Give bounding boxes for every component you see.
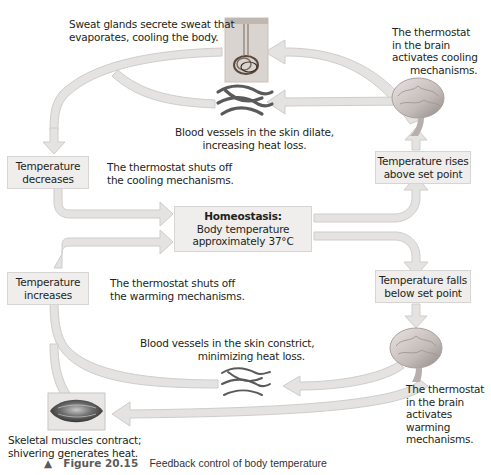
- thermostat-warming-label: The thermostat in the brain activates wa…: [406, 383, 484, 446]
- muscles-label: Skeletal muscles contract; shivering gen…: [8, 434, 141, 459]
- figure-caption: ▲ Figure 20.15 Feedback control of body …: [44, 457, 327, 469]
- blood-vessels-dilated-icon: [218, 86, 272, 114]
- thermostat-cooling-line: mechanisms.: [392, 64, 478, 77]
- shuts-off-warming-label: The thermostat shuts off the warming mec…: [110, 277, 245, 302]
- figure-description: Feedback control of body temperature: [149, 457, 326, 469]
- thermostat-cooling-line: activates cooling: [392, 51, 478, 64]
- constrict-label: Blood vessels in the skin constrict, min…: [140, 337, 305, 362]
- muscles-label-line: Skeletal muscles contract;: [8, 434, 141, 447]
- temp-decreases-line: decreases: [8, 173, 88, 186]
- temp-falls-box: Temperature falls below set point: [375, 270, 471, 303]
- shuts-off-cooling-line: the cooling mechanisms.: [107, 174, 234, 187]
- dilate-label-line: Blood vessels in the skin dilate,: [172, 126, 337, 139]
- temp-decreases-box: Temperature decreases: [7, 156, 89, 189]
- arrow-brain-to-muscle: [112, 380, 428, 426]
- shuts-off-warming-line: the warming mechanisms.: [110, 290, 245, 303]
- arrow-decreases-to-homeostasis: [54, 188, 173, 226]
- homeostasis-line: approximately 37°C: [175, 235, 311, 248]
- temp-increases-line: increases: [8, 289, 88, 302]
- dilate-label-line: increasing heat loss.: [172, 139, 337, 152]
- shuts-off-warming-line: The thermostat shuts off: [110, 277, 245, 290]
- arrow-brain-to-constrict: [283, 362, 404, 396]
- temp-rises-line: above set point: [376, 168, 470, 181]
- temp-falls-line: Temperature falls: [376, 274, 470, 287]
- thermostat-warming-line: in the brain: [406, 396, 484, 409]
- temp-increases-line: Temperature: [8, 276, 88, 289]
- homeostasis-line: Body temperature: [175, 223, 311, 236]
- shuts-off-cooling-label: The thermostat shuts off the cooling mec…: [107, 161, 234, 186]
- brain-bottom-icon: [390, 328, 442, 382]
- arrow-dilate-to-left: [112, 70, 215, 108]
- homeostasis-title: Homeostasis:: [175, 210, 311, 223]
- arrow-into-temp-decreases: [43, 128, 65, 154]
- thermostat-cooling-label: The thermostat in the brain activates co…: [392, 26, 478, 76]
- shuts-off-cooling-line: The thermostat shuts off: [107, 161, 234, 174]
- brain-top-icon: [392, 78, 444, 136]
- sweat-label-line: evaporates, cooling the body.: [69, 31, 234, 44]
- homeostasis-box: Homeostasis: Body temperature approximat…: [174, 206, 312, 252]
- temp-increases-box: Temperature increases: [7, 272, 89, 305]
- thermostat-cooling-line: in the brain: [392, 39, 478, 52]
- temp-rises-line: Temperature rises: [376, 155, 470, 168]
- arrow-increases-to-homeostasis: [54, 230, 173, 268]
- sweat-label-line: Sweat glands secrete sweat that: [69, 18, 234, 31]
- thermostat-cooling-line: The thermostat: [392, 26, 478, 39]
- constrict-label-line: Blood vessels in the skin constrict,: [140, 337, 305, 350]
- figure-number: Figure 20.15: [63, 457, 138, 469]
- thermostat-warming-line: mechanisms.: [406, 433, 484, 446]
- thermostat-warming-line: warming: [406, 421, 484, 434]
- temp-decreases-line: Temperature: [8, 160, 88, 173]
- temp-rises-box: Temperature rises above set point: [375, 151, 471, 184]
- dilate-label: Blood vessels in the skin dilate, increa…: [172, 126, 337, 151]
- constrict-label-line: minimizing heat loss.: [140, 350, 305, 363]
- thermostat-warming-line: activates: [406, 408, 484, 421]
- arrow-falls-to-brain: [405, 304, 427, 328]
- temp-falls-line: below set point: [376, 287, 470, 300]
- figure-marker-icon: ▲: [44, 457, 52, 469]
- blood-vessels-constricted-icon: [222, 369, 270, 396]
- sweat-label: Sweat glands secrete sweat that evaporat…: [69, 18, 234, 43]
- thermostat-warming-line: The thermostat: [406, 383, 484, 396]
- skeletal-muscle-icon: [48, 393, 105, 430]
